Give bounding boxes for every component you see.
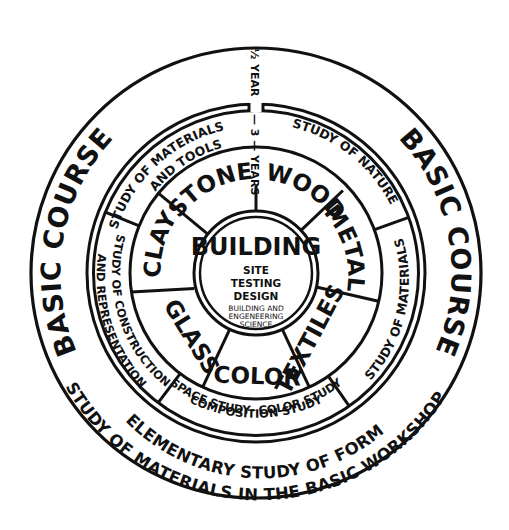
- half-year-fraction: ½: [248, 48, 261, 59]
- center-item-testing: TESTING: [231, 277, 281, 289]
- material-color: COLOR: [213, 361, 302, 390]
- center-science-line3: SCIENCE: [240, 320, 273, 329]
- center-item-site: SITE: [243, 264, 269, 276]
- center-item-design: DESIGN: [234, 290, 279, 302]
- material-metal: METAL: [319, 200, 369, 294]
- svg-text:CLAY: CLAY: [139, 207, 182, 278]
- material-glass: GLASS: [159, 294, 225, 379]
- three-years-dash: — 3 —: [248, 114, 261, 151]
- curriculum-wheel-diagram: ½ YEAR — 3 — YEARS BASIC COURSE BASIC CO…: [0, 0, 509, 530]
- basic-year-label: YEAR: [248, 63, 261, 97]
- material-clay: CLAY: [139, 207, 182, 278]
- center-title: BUILDING: [191, 233, 322, 261]
- study-of-materials-label: STUDY OF MATERIALS: [361, 237, 412, 383]
